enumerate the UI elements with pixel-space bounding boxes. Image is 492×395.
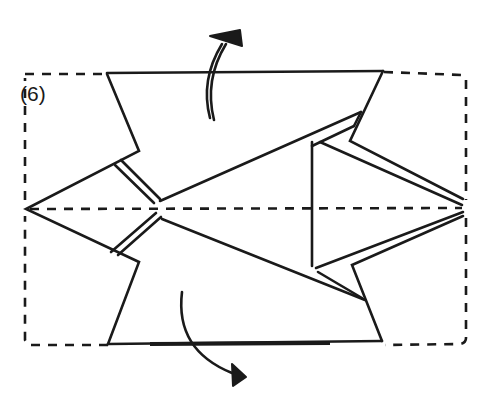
left-flap: [26, 74, 365, 344]
right-flap: [312, 71, 463, 341]
center-fold-line: [30, 208, 462, 209]
dashed-outline: [25, 72, 466, 345]
fold-arrow-down-icon: [181, 292, 246, 386]
top-edge: [107, 71, 383, 73]
fold-diagram: [0, 0, 492, 395]
fold-arrow-up-icon: [207, 30, 242, 120]
